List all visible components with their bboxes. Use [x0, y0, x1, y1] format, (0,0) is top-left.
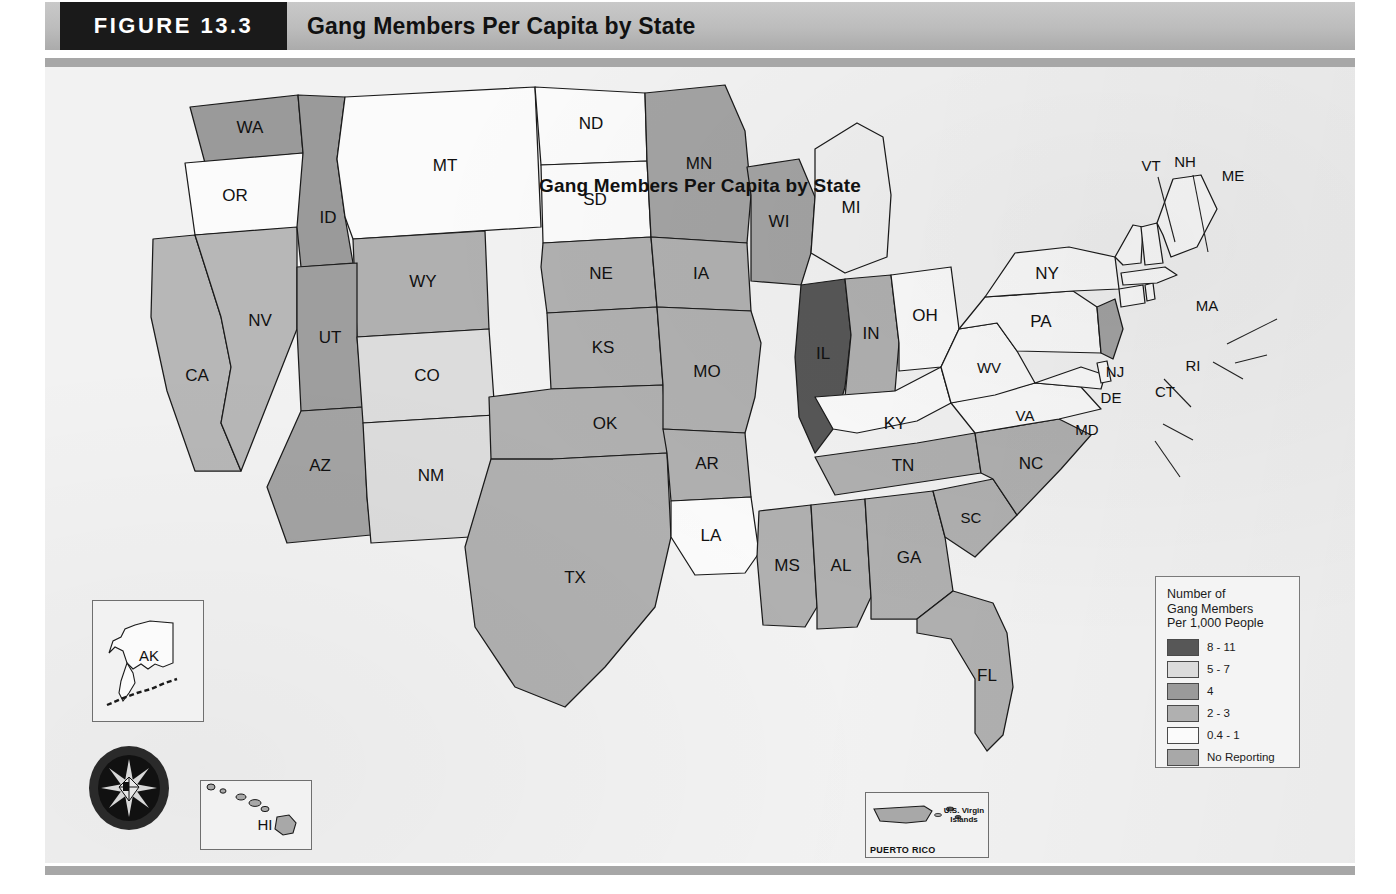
state-label-fl: FL — [977, 666, 997, 685]
footer-rule — [45, 866, 1355, 875]
state-label-wi: WI — [769, 212, 790, 231]
state-label-ca: CA — [185, 366, 209, 385]
leader-ri — [1235, 355, 1267, 363]
leader-ct — [1213, 362, 1243, 379]
map-legend: Number of Gang Members Per 1,000 People … — [1155, 576, 1300, 768]
legend-rows: 8 - 115 - 742 - 30.4 - 1No Reporting — [1167, 638, 1299, 767]
puerto-rico-label: PUERTO RICO — [870, 845, 936, 855]
state-label-oh: OH — [912, 306, 938, 325]
legend-row: 0.4 - 1 — [1167, 726, 1299, 745]
leader-ma — [1227, 319, 1277, 344]
state-label-vt: VT — [1141, 157, 1160, 174]
state-label-va: VA — [1016, 407, 1035, 424]
legend-swatch — [1167, 639, 1199, 656]
state-label-ga: GA — [897, 548, 922, 567]
state-label-co: CO — [414, 366, 440, 385]
legend-label: 5 - 7 — [1207, 663, 1230, 675]
legend-swatch — [1167, 727, 1199, 744]
hawaii-label: HI — [258, 816, 273, 833]
state-ct — [1119, 285, 1145, 307]
state-label-in: IN — [863, 324, 880, 343]
state-label-ks: KS — [592, 338, 615, 357]
hawaii-inset: HI — [200, 780, 312, 850]
state-label-nd: ND — [579, 114, 604, 133]
legend-title-line2: Gang Members — [1167, 602, 1299, 617]
state-ri — [1145, 283, 1155, 301]
state-label-ar: AR — [695, 454, 719, 473]
state-label-mi: MI — [842, 198, 861, 217]
figure-title: Gang Members Per Capita by State — [307, 2, 696, 50]
state-label-ia: IA — [693, 264, 710, 283]
legend-swatch — [1167, 683, 1199, 700]
state-label-ne: NE — [589, 264, 613, 283]
state-fl — [917, 591, 1013, 751]
legend-row: No Reporting — [1167, 748, 1299, 767]
leader-md — [1155, 441, 1180, 477]
state-label-mn: MN — [686, 154, 712, 173]
state-label-md: MD — [1075, 421, 1098, 438]
state-label-al: AL — [831, 556, 852, 575]
legend-label: 8 - 11 — [1207, 641, 1236, 653]
state-label-ms: MS — [774, 556, 800, 575]
state-label-id: ID — [320, 208, 337, 227]
state-label-mt: MT — [433, 156, 458, 175]
state-label-wv: WV — [977, 359, 1001, 376]
state-label-az: AZ — [309, 456, 331, 475]
state-label-nc: NC — [1019, 454, 1044, 473]
state-label-la: LA — [701, 526, 722, 545]
legend-row: 2 - 3 — [1167, 704, 1299, 723]
legend-swatch — [1167, 661, 1199, 678]
header-rule — [45, 58, 1355, 67]
puerto-rico-inset: PUERTO RICO U.S. Virgin Islands — [865, 792, 989, 858]
state-label-ny: NY — [1035, 264, 1059, 283]
state-label-de: DE — [1101, 389, 1122, 406]
state-label-sc: SC — [961, 509, 982, 526]
virgin-islands-label: U.S. Virgin Islands — [943, 807, 985, 824]
state-label-ct: CT — [1155, 383, 1175, 400]
legend-label: No Reporting — [1207, 751, 1275, 763]
alaska-inset: AK — [92, 600, 204, 722]
figure-page: FIGURE 13.3 Gang Members Per Capita by S… — [0, 0, 1396, 894]
state-label-ok: OK — [593, 414, 618, 433]
legend-row: 8 - 11 — [1167, 638, 1299, 657]
state-label-wa: WA — [237, 118, 264, 137]
legend-label: 4 — [1207, 685, 1213, 697]
state-label-ri: RI — [1186, 357, 1201, 374]
legend-label: 2 - 3 — [1207, 707, 1230, 719]
legend-title-line1: Number of — [1167, 587, 1299, 602]
legend-swatch — [1167, 705, 1199, 722]
state-ma — [1121, 267, 1177, 285]
legend-swatch — [1167, 749, 1199, 766]
state-label-nh: NH — [1174, 153, 1196, 170]
state-label-ma: MA — [1196, 297, 1219, 314]
state-vt — [1115, 225, 1143, 265]
legend-title: Number of Gang Members Per 1,000 People — [1167, 587, 1299, 631]
state-label-tn: TN — [892, 456, 915, 475]
state-label-ky: KY — [884, 414, 907, 433]
legend-row: 5 - 7 — [1167, 660, 1299, 679]
map-panel: Gang Members Per Capita by State WAORCAN… — [45, 67, 1355, 863]
leader-de — [1163, 424, 1193, 440]
state-label-ut: UT — [319, 328, 342, 347]
state-label-nm: NM — [418, 466, 444, 485]
state-label-il: IL — [816, 344, 830, 363]
state-label-pa: PA — [1030, 312, 1052, 331]
legend-title-line3: Per 1,000 People — [1167, 616, 1299, 631]
state-ok — [489, 385, 667, 459]
legend-label: 0.4 - 1 — [1207, 729, 1240, 741]
alaska-label: AK — [139, 647, 159, 664]
map-title: Gang Members Per Capita by State — [45, 175, 1355, 197]
legend-row: 4 — [1167, 682, 1299, 701]
state-label-nj: NJ — [1106, 363, 1124, 380]
state-label-nv: NV — [248, 311, 272, 330]
state-nj — [1097, 299, 1123, 359]
state-label-wy: WY — [409, 272, 436, 291]
state-label-tx: TX — [564, 568, 586, 587]
figure-number-label: FIGURE 13.3 — [60, 2, 287, 50]
state-label-mo: MO — [693, 362, 720, 381]
ndic-seal-logo — [85, 743, 173, 833]
